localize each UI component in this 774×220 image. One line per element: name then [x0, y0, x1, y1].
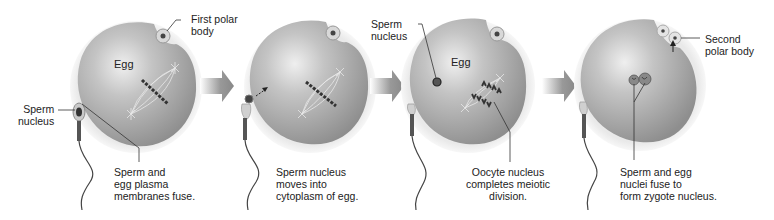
first-polar-body-label: First polar body [191, 13, 238, 37]
stage-2-caption: Sperm nucleus moves into cytoplasm of eg… [276, 166, 358, 202]
first-polar-body-icon [156, 29, 170, 43]
stage-4-caption: Sperm and egg nuclei fuse to form zygote… [620, 166, 717, 202]
sperm-nucleus-label: Sperm nucleus [371, 18, 407, 42]
first-polar-body-icon [326, 26, 340, 40]
second-polar-body-icon [669, 32, 681, 44]
egg-label: Egg [451, 56, 471, 68]
sperm-nucleus-icon [433, 78, 441, 86]
egg-label: Egg [114, 58, 134, 70]
right-arrow-icon [200, 70, 234, 102]
right-arrow-icon [542, 70, 576, 102]
first-polar-body-icon [490, 27, 504, 41]
stage-3-caption: Oocyte nucleus completes meiotic divisio… [466, 166, 550, 202]
first-polar-body-icon [657, 25, 669, 37]
second-polar-body-label: Second polar body [705, 33, 754, 57]
sperm-nucleus-icon [245, 95, 253, 103]
sperm-nucleus-label: Sperm nucleus [18, 103, 54, 127]
stage-1-caption: Sperm and egg plasma membranes fuse. [114, 166, 195, 202]
